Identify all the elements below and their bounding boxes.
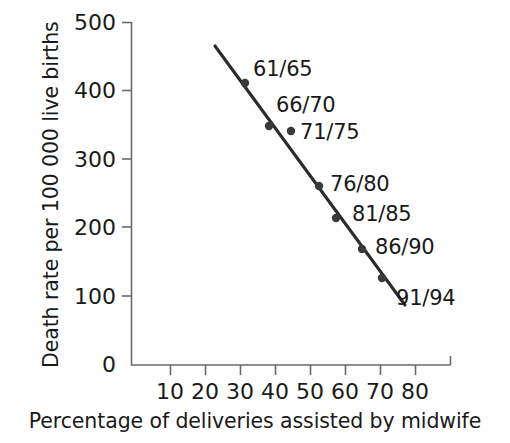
x-tick-label-40: 40 [255,379,295,404]
point-label-76-80: 76/80 [330,172,390,196]
point-label-71-75: 71/75 [300,120,360,144]
x-tick-label-10: 10 [150,379,190,404]
scatter-chart: 500 400 300 200 100 0 10 20 30 40 50 60 … [0,0,510,443]
point-label-66-70: 66/70 [276,93,336,117]
x-axis-title: Percentage of deliveries assisted by mid… [0,409,510,433]
data-point-81-85 [332,214,340,222]
x-tick-label-80: 80 [395,379,435,404]
data-point-86-90 [358,245,366,253]
data-point-61-65 [241,79,249,87]
x-tick-label-50: 50 [290,379,330,404]
y-tick-marks [122,23,131,297]
x-tick-label-30: 30 [220,379,260,404]
data-point-66-70 [265,122,273,130]
data-point-91-94 [378,274,386,282]
x-tick-label-70: 70 [360,379,400,404]
point-label-91-94: 91/94 [396,286,456,310]
point-label-61-65: 61/65 [253,57,313,81]
x-tick-label-60: 60 [325,379,365,404]
point-label-86-90: 86/90 [375,235,435,259]
data-point-71-75 [287,127,295,135]
point-label-81-85: 81/85 [352,202,412,226]
x-tick-label-20: 20 [185,379,225,404]
data-point-76-80 [315,182,323,190]
y-axis-title: Death rate per 100 000 live births [34,0,68,368]
